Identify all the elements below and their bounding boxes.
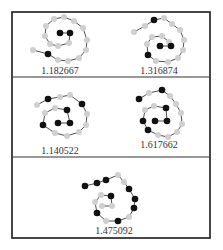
black-node (132, 196, 139, 203)
black-node (157, 43, 164, 50)
gray-node (61, 14, 67, 20)
gray-node (155, 132, 161, 138)
spiral-panel: 1.140522 (34, 92, 90, 156)
panel-score-label: 1.316874 (140, 65, 178, 76)
spiral-panel: 1.316874 (131, 15, 187, 76)
gray-node (76, 129, 82, 135)
black-node (67, 30, 74, 37)
black-node (136, 96, 143, 103)
black-node (115, 218, 122, 225)
panel-score-label: 1.617662 (140, 139, 178, 150)
gray-node (177, 27, 183, 33)
gray-node (126, 214, 132, 220)
gray-node (98, 192, 104, 198)
black-node (145, 52, 152, 59)
spiral-chain-edges (134, 18, 184, 62)
gray-node (179, 121, 185, 127)
gray-node (131, 29, 137, 35)
gray-node (55, 57, 61, 63)
gray-node (52, 130, 58, 136)
gray-node (121, 179, 127, 185)
gray-node (153, 58, 159, 64)
black-node (152, 118, 159, 125)
gray-node (167, 93, 173, 99)
panel-score-label: 1.182667 (41, 65, 79, 76)
gray-node (174, 129, 180, 135)
black-node (57, 30, 64, 37)
gray-node (144, 41, 150, 47)
panel-score-label: 1.140522 (41, 145, 79, 156)
gray-node (30, 47, 36, 53)
black-node (55, 120, 62, 127)
black-node (40, 122, 47, 129)
spiral-chain-edges (33, 17, 87, 61)
black-node (94, 210, 101, 217)
gray-node (173, 101, 179, 107)
black-node (164, 118, 171, 125)
gray-node (83, 122, 89, 128)
gray-node (80, 25, 86, 31)
black-node (79, 101, 86, 108)
black-node (131, 205, 138, 212)
gray-node (42, 33, 48, 39)
gray-node (175, 55, 181, 61)
black-node (82, 183, 89, 190)
gray-node (34, 102, 40, 108)
gray-node (84, 37, 90, 43)
black-node (126, 186, 133, 193)
black-node (140, 118, 147, 125)
black-node (108, 193, 115, 200)
black-node (64, 107, 71, 114)
spiral-panel: 1.182667 (30, 14, 90, 76)
black-node (159, 87, 166, 94)
black-node (67, 120, 74, 127)
gray-node (181, 37, 187, 43)
gray-node (66, 40, 72, 46)
gray-node (169, 21, 175, 27)
gray-node (57, 94, 63, 100)
black-node (151, 17, 158, 24)
spiral-figure: 1.1826671.3168741.1405221.6176621.475092 (0, 0, 223, 250)
gray-node (142, 23, 148, 29)
gray-node (146, 90, 152, 96)
gray-node (109, 203, 115, 209)
gray-node (178, 110, 184, 116)
gray-node (65, 58, 71, 64)
gray-node (47, 41, 53, 47)
gray-node (92, 199, 98, 205)
gray-node (151, 103, 157, 109)
gray-node (67, 92, 73, 98)
gray-node (76, 55, 82, 61)
gray-node (43, 23, 49, 29)
spiral-panel: 1.617662 (136, 87, 185, 150)
black-node (45, 51, 52, 58)
gray-node (42, 110, 48, 116)
gray-node (142, 107, 148, 113)
gray-node (161, 15, 167, 21)
black-node (103, 177, 110, 184)
black-node (145, 127, 152, 134)
spiral-panel: 1.475092 (82, 172, 139, 236)
gray-node (159, 33, 165, 39)
gray-node (71, 18, 77, 24)
gray-node (64, 133, 70, 139)
gray-node (103, 218, 109, 224)
gray-node (149, 34, 155, 40)
gray-node (180, 47, 186, 53)
gray-node (83, 47, 89, 53)
gray-node (115, 172, 121, 178)
gray-node (52, 105, 58, 111)
gray-node (99, 203, 105, 209)
black-node (94, 180, 101, 187)
gray-node (84, 111, 90, 117)
spiral-panels: 1.1826671.3168741.1405221.6176621.475092 (30, 14, 187, 236)
black-node (168, 43, 175, 50)
gray-node (55, 43, 61, 49)
black-node (163, 105, 170, 112)
panel-score-label: 1.475092 (95, 225, 133, 236)
black-node (45, 96, 52, 103)
gray-node (51, 16, 57, 22)
